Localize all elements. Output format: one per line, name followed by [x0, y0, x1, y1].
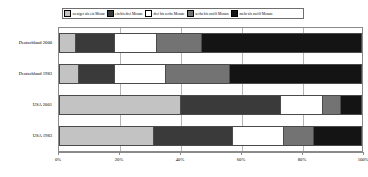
y-axis-category-labels: Deutschland 2000 Deutschland 1983 USA 20… — [0, 27, 55, 152]
x-axis-tick-label: 60% — [237, 157, 245, 163]
bar-segment — [322, 96, 340, 114]
legend-item-ein-bis-drei-monate: ein bis drei Monate — [107, 10, 143, 17]
legend-item-mehr-als-zwoelf-monate: mehr als zwölf Monate — [231, 10, 273, 17]
legend-item-label: mehr als zwölf Monate — [240, 12, 273, 16]
x-axis-tick — [363, 152, 364, 155]
legend-item-label: drei bis sechs Monate — [153, 12, 184, 16]
legend-item-label: sechs bis zwölf Monate — [195, 12, 229, 16]
bar-row — [59, 126, 362, 146]
bar-segment — [60, 96, 180, 114]
x-axis-tick-label: 100% — [358, 157, 368, 163]
y-axis-label-deutschland-2000: Deutschland 2000 — [0, 33, 55, 53]
x-axis-tick — [58, 152, 59, 155]
bar-segment — [60, 34, 75, 52]
bar-segment — [280, 96, 322, 114]
bar-segment — [114, 34, 156, 52]
legend-item-sechs-bis-zwoelf-monate: sechs bis zwölf Monate — [187, 10, 229, 17]
bar-segment — [229, 65, 361, 83]
x-axis-tick — [180, 152, 181, 155]
bar-segment — [201, 34, 361, 52]
bar-row — [59, 33, 362, 53]
bars-container — [59, 28, 362, 151]
bar-segment — [165, 65, 228, 83]
legend-swatch-icon — [187, 10, 194, 17]
bar-row — [59, 95, 362, 115]
bar-segment — [180, 96, 279, 114]
bar-segment — [60, 127, 153, 145]
legend-item-weniger-als-ein-monat: weniger als ein Monat — [64, 10, 105, 17]
x-axis-tick-label: 0% — [55, 157, 61, 163]
x-axis-tick-label: 40% — [176, 157, 184, 163]
y-axis-label-usa-1983: USA 1983 — [0, 126, 55, 146]
legend-swatch-icon — [107, 10, 114, 17]
legend-item-label: ein bis drei Monate — [115, 12, 143, 16]
bar-segment — [60, 65, 78, 83]
bar-segment — [232, 127, 283, 145]
bar-segment — [78, 65, 114, 83]
chart-legend: weniger als ein Monat ein bis drei Monat… — [62, 8, 304, 19]
y-axis-label-deutschland-1983: Deutschland 1983 — [0, 64, 55, 84]
legend-swatch-icon — [231, 10, 238, 17]
bar-segment — [114, 65, 165, 83]
x-axis-tick — [302, 152, 303, 155]
x-axis-tick — [119, 152, 120, 155]
bar-segment — [153, 127, 231, 145]
bar-segment — [156, 34, 201, 52]
legend-swatch-icon — [145, 10, 152, 17]
x-axis-tick-label: 80% — [298, 157, 306, 163]
legend-item-drei-bis-sechs-monate: drei bis sechs Monate — [145, 10, 185, 17]
y-axis-label-usa-2001: USA 2001 — [0, 95, 55, 115]
legend-swatch-icon — [64, 10, 71, 17]
x-axis-tick — [241, 152, 242, 155]
plot-area — [58, 27, 363, 152]
legend-item-label: weniger als ein Monat — [73, 12, 105, 16]
x-axis-tick-label: 20% — [115, 157, 123, 163]
bar-segment — [283, 127, 313, 145]
bar-segment — [313, 127, 361, 145]
bar-row — [59, 64, 362, 84]
bar-segment — [340, 96, 361, 114]
x-axis-line — [58, 152, 363, 153]
bar-segment — [75, 34, 114, 52]
